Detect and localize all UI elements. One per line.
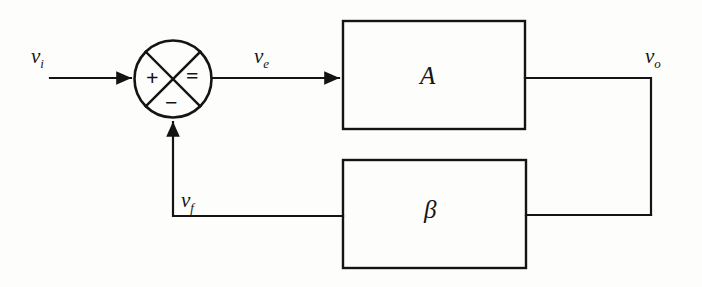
label-output-signal-base: v: [645, 44, 654, 68]
label-error-signal-base: v: [254, 44, 263, 68]
label-feedback-signal-subscript: f: [190, 200, 194, 215]
label-feedback-block: β: [424, 197, 436, 222]
block-diagram-canvas: + = − vi ve vo vf A β: [0, 0, 702, 287]
label-input-signal-subscript: i: [40, 56, 44, 71]
summing-junction-minus-sign: −: [165, 92, 178, 114]
label-output-signal: vo: [645, 46, 661, 70]
diagram-vector-layer: [0, 0, 702, 287]
label-feedback-signal: vf: [181, 190, 194, 214]
wire-amplifier-output: [525, 78, 651, 215]
summing-junction-equals-sign: =: [186, 65, 199, 87]
label-input-signal-base: v: [31, 44, 40, 68]
label-error-signal: ve: [254, 46, 269, 70]
label-feedback-signal-base: v: [181, 188, 190, 212]
summing-junction-plus-sign: +: [146, 67, 159, 89]
wire-feedback-to-summing-junction: [173, 122, 343, 216]
label-amplifier-block: A: [420, 63, 435, 88]
label-input-signal: vi: [31, 46, 44, 70]
label-error-signal-subscript: e: [263, 56, 269, 71]
label-output-signal-subscript: o: [654, 56, 661, 71]
